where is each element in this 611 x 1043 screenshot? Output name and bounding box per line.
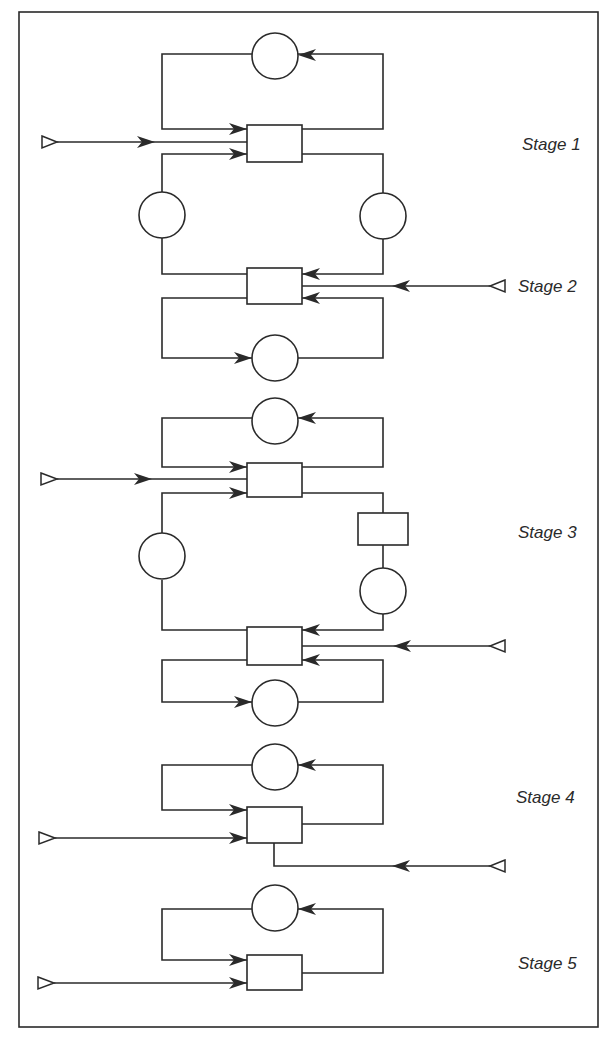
stage-3-upper-box xyxy=(247,463,302,497)
stage-5-box xyxy=(247,955,302,990)
process-circle xyxy=(252,680,298,726)
input-triangle-icon xyxy=(490,280,505,292)
process-circle xyxy=(252,33,298,79)
stage-2-box xyxy=(247,268,302,304)
input-triangle-icon xyxy=(41,473,57,485)
process-circle xyxy=(139,533,185,579)
auxiliary-box xyxy=(358,513,408,545)
input-triangle-icon xyxy=(39,832,55,844)
stage-3-label: Stage 3 xyxy=(518,523,577,543)
stage-3-lower-box xyxy=(247,627,302,665)
stage-1-label: Stage 1 xyxy=(522,135,581,155)
border xyxy=(19,12,598,1027)
stage-2-label: Stage 2 xyxy=(518,277,577,297)
stage-5-group xyxy=(38,885,383,990)
input-triangle-icon xyxy=(490,860,505,872)
process-circle xyxy=(252,335,298,381)
process-circle xyxy=(252,744,298,790)
process-circle xyxy=(360,193,406,239)
stage-3-group xyxy=(41,398,505,726)
process-circle xyxy=(139,192,185,238)
input-triangle-icon xyxy=(38,977,54,989)
stage-4-box xyxy=(247,807,302,843)
flow-diagram xyxy=(0,0,611,1043)
input-triangle-icon xyxy=(42,136,57,148)
stage-1-2-group xyxy=(42,33,505,381)
stage-4-label: Stage 4 xyxy=(516,788,575,808)
process-circle xyxy=(252,885,298,931)
process-circle xyxy=(252,398,298,444)
arrowhead-icon xyxy=(298,49,316,61)
process-circle xyxy=(360,568,406,614)
stage-5-label: Stage 5 xyxy=(518,954,577,974)
input-triangle-icon xyxy=(490,640,505,652)
stage-4-group xyxy=(39,744,505,872)
stage-1-box xyxy=(247,125,302,162)
